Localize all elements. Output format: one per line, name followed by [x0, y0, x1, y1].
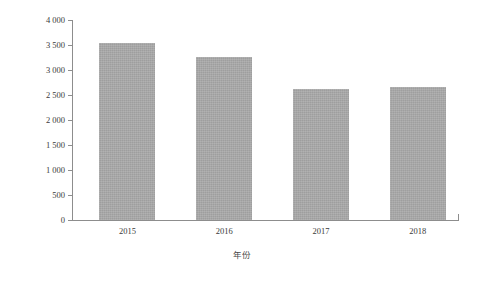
y-tick-label: 0 — [61, 215, 65, 225]
y-tick-mark — [68, 195, 72, 196]
x-tick-label-2017: 2017 — [312, 226, 329, 236]
y-tick-mark — [68, 45, 72, 46]
y-tick-label: 500 — [52, 190, 65, 200]
y-tick-mark — [68, 170, 72, 171]
bar-2016 — [196, 57, 252, 221]
y-tick-mark — [68, 120, 72, 121]
y-tick-mark — [68, 70, 72, 71]
x-axis-title: 年份 — [0, 248, 484, 260]
y-tick-label: 2 000 — [46, 115, 65, 125]
bar-chart-figure: 工业企业数/家 05001 0001 5002 0002 5003 0003 5… — [0, 0, 484, 281]
bar-2015 — [99, 43, 155, 220]
bar-2017 — [293, 89, 349, 220]
y-tick-label: 2 500 — [46, 90, 65, 100]
y-tick-mark — [68, 220, 72, 221]
x-axis-line — [72, 220, 459, 221]
x-axis-end-tick — [458, 214, 459, 220]
x-tick-label-2018: 2018 — [409, 226, 426, 236]
y-tick-label: 3 000 — [46, 65, 65, 75]
bar-2018 — [390, 87, 446, 220]
y-tick-label: 1 000 — [46, 165, 65, 175]
plot-area: 05001 0001 5002 0002 5003 0003 5004 000 … — [72, 20, 459, 220]
x-tick-label-2016: 2016 — [216, 226, 233, 236]
y-tick-mark — [68, 145, 72, 146]
y-tick-label: 3 500 — [46, 40, 65, 50]
y-tick-mark — [68, 20, 72, 21]
y-axis-line — [72, 20, 73, 220]
x-tick-label-2015: 2015 — [119, 226, 136, 236]
y-tick-label: 1 500 — [46, 140, 65, 150]
y-tick-mark — [68, 95, 72, 96]
y-tick-label: 4 000 — [46, 15, 65, 25]
